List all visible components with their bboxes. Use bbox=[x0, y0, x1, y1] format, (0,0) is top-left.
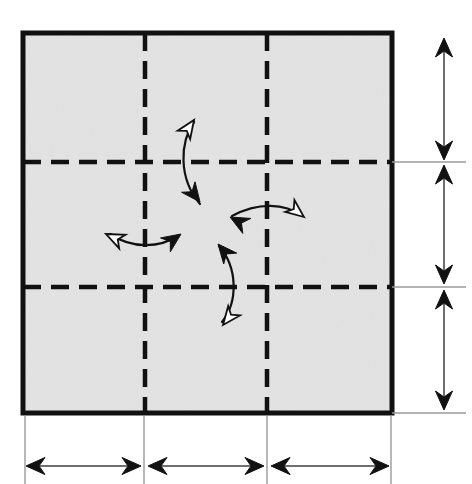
panel-paper-texture bbox=[25, 35, 390, 411]
main-panel-group bbox=[23, 33, 392, 413]
figure-root bbox=[0, 0, 472, 484]
diagram-canvas bbox=[0, 0, 472, 484]
